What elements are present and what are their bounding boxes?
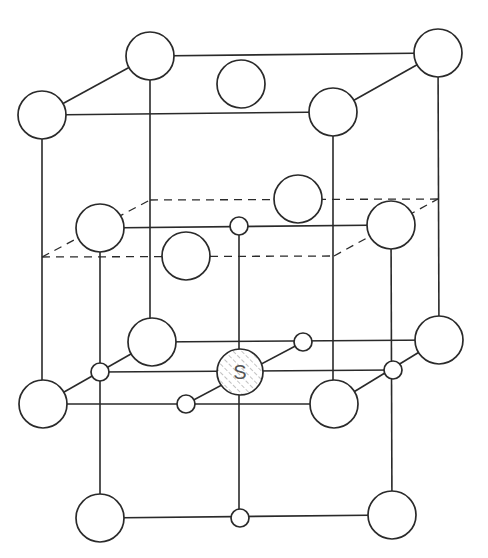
atoms: [18, 29, 463, 542]
large-atom-top-face-center: [217, 60, 265, 108]
small-atom-low-back-small: [294, 333, 312, 351]
bond-line: [42, 112, 333, 115]
large-atom-mid-left: [76, 204, 124, 252]
large-atom-mid-front-face: [162, 232, 210, 280]
small-atom-low-right-small: [384, 361, 402, 379]
large-atom-low-front-right: [310, 380, 358, 428]
small-atom-low-left-small: [91, 363, 109, 381]
large-atom-mid-back-face: [274, 175, 322, 223]
s-atom-label: S: [233, 361, 246, 383]
central-s-atom: S: [217, 349, 263, 395]
bond-line: [150, 53, 438, 56]
small-atom-low-front-small: [177, 395, 195, 413]
large-atom-bottom-left: [76, 494, 124, 542]
lattice-bonds: [42, 53, 439, 518]
large-atom-low-front-left: [19, 380, 67, 428]
large-atom-bottom-right: [368, 491, 416, 539]
large-atom-low-back-right: [415, 316, 463, 364]
large-atom-top-front-left: [18, 91, 66, 139]
large-atom-top-back-right: [414, 29, 462, 77]
large-atom-top-front-right: [309, 88, 357, 136]
bond-line: [438, 53, 439, 340]
large-atom-mid-right: [367, 201, 415, 249]
small-atom-mid-center-small: [230, 217, 248, 235]
large-atom-top-back-left: [126, 32, 174, 80]
small-atom-bottom-center-small: [231, 509, 249, 527]
large-atom-low-back-left: [128, 318, 176, 366]
crystal-lattice-diagram: S: [0, 0, 488, 558]
